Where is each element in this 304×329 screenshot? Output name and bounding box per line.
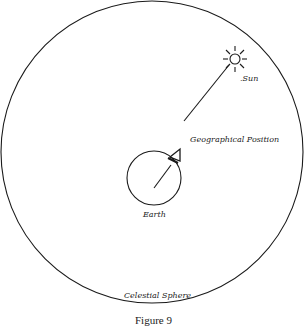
- earth-label: Earth: [143, 210, 166, 219]
- diagram-canvas: [0, 0, 304, 329]
- earth-circle: [127, 151, 181, 205]
- earth-radius-line: [154, 165, 171, 188]
- sun-ray-line: [184, 65, 229, 121]
- geographical-position-label: Geographical Position: [190, 135, 279, 144]
- figure-caption: Figure 9: [135, 314, 172, 326]
- celestial-sphere-label: Celestial Sphere: [124, 291, 191, 300]
- sun-label: .Sun: [240, 74, 258, 83]
- celestial-sphere-circle: [1, 1, 303, 303]
- sun-icon: [223, 46, 247, 72]
